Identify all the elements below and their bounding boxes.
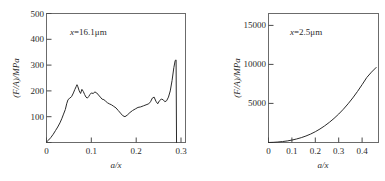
y-ticklabel-200: 200: [31, 86, 45, 96]
plot-frame-left: [47, 14, 186, 143]
figure-container: 500 400 300 200 100 0 0.1 0.2 0.3 a/x (F…: [0, 0, 385, 181]
chart-panel-left: 500 400 300 200 100 0 0.1 0.2 0.3 a/x (F…: [0, 0, 195, 181]
x-axis-label-left: a/x: [111, 160, 122, 170]
x-ticklabel-r-0p2: 0.2: [310, 146, 321, 156]
y-ticklabel-400: 400: [31, 34, 45, 44]
chart-left-svg: 500 400 300 200 100 0 0.1 0.2 0.3 a/x (F…: [0, 0, 195, 181]
x-ticklabel-r-0p1: 0.1: [286, 146, 297, 156]
y-axis-label-right: (F/A)/MPa: [232, 58, 242, 98]
y-ticklabel-500: 500: [31, 9, 45, 19]
chart-right-svg: 15000 10000 5000 0 0.1 0.2 0.3 0.4 a/x (…: [190, 0, 385, 181]
x-ticklabel-r-0p4: 0.4: [356, 146, 368, 156]
y-ticklabel-5000: 5000: [248, 98, 267, 108]
y-ticklabel-15000: 15000: [244, 20, 267, 30]
y-ticklabel-100: 100: [31, 112, 45, 122]
y-ticklabel-10000: 10000: [244, 59, 267, 69]
annotation-left-rest: =16.1μm: [74, 27, 107, 37]
annotation-left: x=16.1μm: [69, 27, 107, 37]
y-axis-label-left: (F/A)/MPa: [11, 58, 21, 98]
x-ticks-left: [47, 138, 182, 143]
x-ticklabel-0p2: 0.2: [131, 146, 142, 156]
annotation-right: x=2.5μm: [289, 27, 322, 37]
y-ticks-right: [269, 25, 274, 142]
x-ticklabel-r-0p3: 0.3: [333, 146, 345, 156]
x-ticklabel-r-0: 0: [266, 146, 271, 156]
annotation-right-rest: =2.5μm: [294, 27, 322, 37]
x-ticklabel-0p1: 0.1: [86, 146, 97, 156]
y-ticks-left: [47, 14, 52, 143]
x-axis-label-right: a/x: [318, 160, 329, 170]
data-curve-left: [47, 60, 177, 143]
x-ticklabel-0: 0: [44, 146, 49, 156]
x-ticklabel-0p3: 0.3: [175, 146, 187, 156]
y-ticklabel-300: 300: [31, 60, 45, 70]
chart-panel-right: 15000 10000 5000 0 0.1 0.2 0.3 0.4 a/x (…: [190, 0, 385, 181]
data-curve-right: [269, 67, 377, 142]
plot-frame-right: [269, 14, 379, 143]
